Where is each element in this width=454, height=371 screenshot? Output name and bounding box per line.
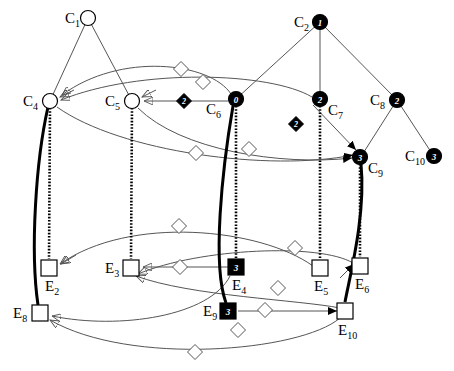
edge-diamond-d7[interactable] <box>172 219 187 234</box>
label-subscript: 9 <box>212 311 217 322</box>
relation-edge-c4-c9 <box>57 107 353 161</box>
diamond-marker-value: 2 <box>181 97 186 106</box>
node-marker-value: 0 <box>234 95 239 105</box>
label-subscript: 4 <box>241 285 246 296</box>
node-e3[interactable] <box>123 260 139 276</box>
label-base: C <box>105 93 115 109</box>
label-c9: C9 <box>368 161 383 179</box>
edge-diamond-d12[interactable] <box>231 323 246 338</box>
label-subscript: 6 <box>216 109 221 120</box>
node-marker-value: 3 <box>225 307 231 317</box>
arrow-into-c5-a <box>142 90 156 97</box>
diamond-shape <box>173 260 188 275</box>
edge-diamond-d5[interactable] <box>189 146 204 161</box>
node-c4[interactable] <box>43 94 58 109</box>
diamond-shape <box>172 219 187 234</box>
label-subscript: 2 <box>304 22 309 33</box>
diamond-shape <box>174 62 189 77</box>
node-e10[interactable] <box>337 303 353 319</box>
node-shape-square <box>32 305 48 321</box>
label-e5: E5 <box>314 279 328 297</box>
label-subscript: 9 <box>378 168 383 179</box>
node-shape-square <box>41 260 57 276</box>
diamond-shape <box>231 323 246 338</box>
tree-edge-c1-c5 <box>88 18 132 101</box>
node-marker-value: 2 <box>317 95 323 105</box>
label-c2: C2 <box>294 15 309 33</box>
node-e2[interactable] <box>41 260 57 276</box>
label-base: E <box>314 278 323 294</box>
edge-diamond-d8[interactable] <box>173 260 188 275</box>
node-e6[interactable] <box>352 258 368 274</box>
label-base: C <box>294 14 304 30</box>
node-c5[interactable] <box>125 94 140 109</box>
node-c10[interactable]: 3 <box>427 149 442 164</box>
diamond-shape <box>242 142 257 157</box>
edge-diamond-d2[interactable]: 2 <box>289 117 304 132</box>
label-base: C <box>405 148 415 164</box>
node-c7[interactable]: 2 <box>313 92 328 107</box>
node-shape-circle <box>43 94 58 109</box>
label-subscript: 10 <box>415 156 425 167</box>
label-subscript: 4 <box>33 101 38 112</box>
edge-diamond-d3[interactable] <box>174 62 189 77</box>
label-e8: E8 <box>13 306 27 324</box>
node-e9[interactable]: 3 <box>220 303 236 319</box>
diamond-shape <box>188 345 203 360</box>
label-base: E <box>355 276 364 292</box>
label-base: C <box>328 102 338 118</box>
label-e6: E6 <box>355 277 369 295</box>
node-shape-circle <box>125 94 140 109</box>
node-c1[interactable] <box>81 11 96 26</box>
label-subscript: 7 <box>338 110 343 121</box>
edge-diamond-d6[interactable] <box>242 142 257 157</box>
label-subscript: 8 <box>22 313 27 324</box>
diamond-marker-value: 2 <box>293 120 298 129</box>
label-base: E <box>338 322 347 338</box>
instance-link-c4-e2 <box>49 108 50 259</box>
label-base: C <box>206 101 216 117</box>
edge-diamond-d13[interactable] <box>188 345 203 360</box>
arrow-into-e2 <box>61 255 76 264</box>
node-e8[interactable] <box>32 305 48 321</box>
graph-svg: 10223333 22 <box>0 0 454 371</box>
label-e10: E10 <box>338 323 357 341</box>
node-marker-value: 3 <box>233 263 239 273</box>
edge-diamond-d11[interactable] <box>258 303 273 318</box>
tree-edge-c8-c10 <box>397 100 433 155</box>
label-e3: E3 <box>105 261 119 279</box>
tree-edge-c2-c6 <box>236 22 320 99</box>
label-subscript: 8 <box>380 100 385 111</box>
node-c9[interactable]: 3 <box>353 150 368 165</box>
node-c2[interactable]: 1 <box>313 15 328 30</box>
label-base: E <box>203 303 212 319</box>
label-e9: E9 <box>203 304 217 322</box>
instance-link-c5-e3 <box>131 108 132 259</box>
label-base: E <box>13 305 22 321</box>
diagram-canvas: 10223333 22 C1C2C4C5C6C7C8C9C10E2E3E4E5E… <box>0 0 454 371</box>
node-shape-square <box>312 260 328 276</box>
node-c6[interactable]: 0 <box>229 92 244 107</box>
label-subscript: 10 <box>347 330 357 341</box>
label-base: E <box>45 278 54 294</box>
node-e4[interactable]: 3 <box>228 259 244 275</box>
node-marker-value: 3 <box>431 152 437 162</box>
label-base: E <box>105 260 114 276</box>
label-c7: C7 <box>328 103 343 121</box>
tree-edge-c1-c4 <box>50 18 88 101</box>
label-c6: C6 <box>206 102 221 120</box>
label-c8: C8 <box>370 93 385 111</box>
edge-diamond-d10[interactable] <box>271 281 286 296</box>
label-subscript: 1 <box>75 18 80 29</box>
node-c8[interactable]: 2 <box>390 93 405 108</box>
label-c10: C10 <box>405 149 425 167</box>
label-base: C <box>368 160 378 176</box>
edge-diamond-d1[interactable]: 2 <box>177 94 192 109</box>
node-e5[interactable] <box>312 260 328 276</box>
label-e4: E4 <box>232 278 246 296</box>
label-base: C <box>23 93 33 109</box>
label-base: C <box>370 92 380 108</box>
diamond-shape <box>271 281 286 296</box>
node-marker-value: 3 <box>357 153 363 163</box>
label-subscript: 5 <box>323 286 328 297</box>
